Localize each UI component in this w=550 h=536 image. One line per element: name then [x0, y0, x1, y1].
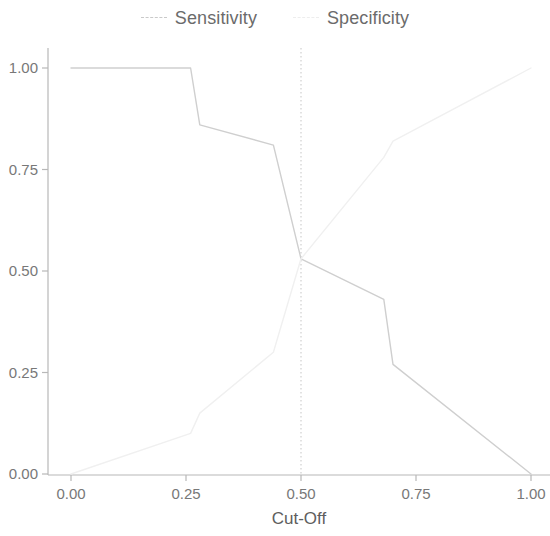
y-axis-tick-label: 0.75: [9, 161, 38, 178]
x-axis-tick-label: 0.75: [401, 485, 430, 502]
y-axis-tick-label: 1.00: [9, 59, 38, 76]
x-axis-tick-label: 0.50: [286, 485, 315, 502]
roc-cutoff-chart: Sensitivity Specificity 0.000.250.500.75…: [0, 0, 550, 536]
x-axis: 0.000.250.500.751.00: [48, 475, 550, 502]
y-axis-tick-label: 0.00: [9, 465, 38, 482]
x-axis-tick-label: 0.25: [171, 485, 200, 502]
y-axis: 0.000.250.500.751.00: [9, 48, 48, 482]
x-axis-title: Cut-Off: [272, 509, 327, 528]
x-axis-tick-label: 1.00: [516, 485, 545, 502]
x-axis-tick-label: 0.00: [56, 485, 85, 502]
plot-area: 0.000.250.500.751.00 0.000.250.500.751.0…: [0, 0, 550, 536]
y-axis-tick-label: 0.50: [9, 262, 38, 279]
y-axis-tick-label: 0.25: [9, 364, 38, 381]
